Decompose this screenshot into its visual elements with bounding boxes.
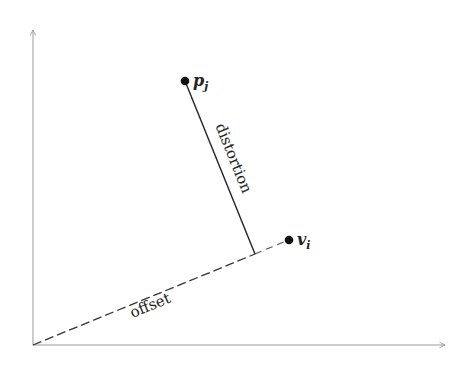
distortion-label: distortion (211, 121, 255, 197)
offset-label: offset (127, 289, 173, 322)
diagram-canvas: pj vi distortion offset (0, 0, 468, 371)
point-v-i (285, 236, 294, 245)
label-p-j: pj (193, 71, 208, 93)
point-p-j (181, 77, 190, 86)
offset-extension-line (255, 241, 286, 254)
label-v-i: vi (297, 230, 310, 252)
